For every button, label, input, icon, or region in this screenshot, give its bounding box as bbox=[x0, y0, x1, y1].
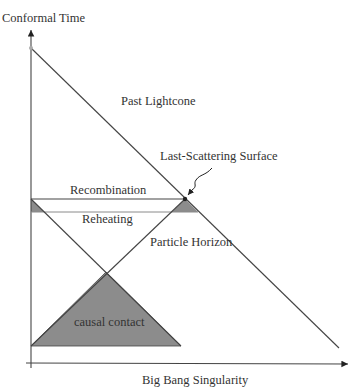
last-scattering-arrow bbox=[188, 168, 212, 195]
x-axis-label: Big Bang Singularity bbox=[142, 373, 249, 387]
causal-contact-region bbox=[31, 272, 181, 346]
past-lightcone-label: Past Lightcone bbox=[121, 94, 196, 108]
reheating-label: Reheating bbox=[82, 212, 133, 226]
causal-contact-label: causal contact bbox=[74, 315, 145, 329]
y-axis-label: Conformal Time bbox=[2, 11, 85, 25]
x-axis bbox=[26, 363, 348, 364]
recombination-label: Recombination bbox=[70, 183, 147, 197]
spacetime-diagram: Conformal Time Big Bang Singularity Past… bbox=[0, 0, 363, 390]
last-scattering-label: Last-Scattering Surface bbox=[160, 149, 278, 163]
particle-horizon-label: Particle Horizon bbox=[150, 235, 233, 249]
last-scattering-point bbox=[183, 197, 187, 201]
observer-point bbox=[29, 46, 33, 50]
